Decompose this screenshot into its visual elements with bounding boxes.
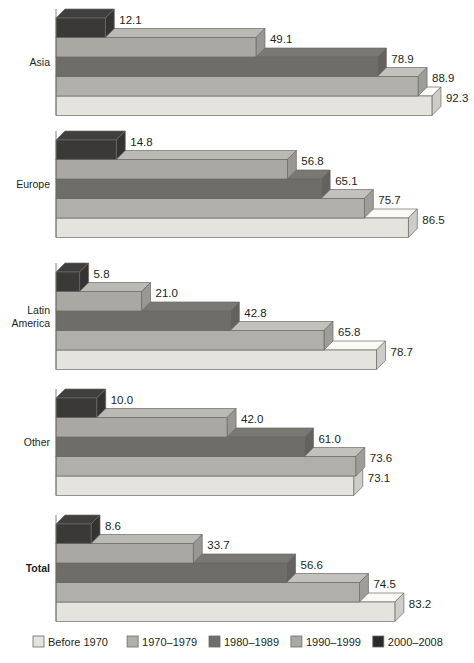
bar-front-face xyxy=(56,476,354,496)
bar-front-face xyxy=(56,311,230,331)
category-label-latin: Latin xyxy=(27,304,50,316)
legend-swatch xyxy=(291,636,302,647)
bar-front-face xyxy=(56,140,116,160)
legend: Before 19701970–19791980–19891990–199920… xyxy=(33,636,443,648)
bar-value-label: 21.0 xyxy=(156,287,178,299)
legend-label: 1970–1979 xyxy=(142,636,197,648)
bar-group-total: 83.274.556.633.78.6Total xyxy=(26,515,432,622)
bar-value-label: 73.1 xyxy=(368,472,390,484)
bar-front-face xyxy=(56,457,356,477)
legend-swatch xyxy=(209,636,220,647)
bar-value-label: 92.3 xyxy=(446,92,468,104)
bar-value-label: 56.6 xyxy=(301,559,323,571)
bar-front-face xyxy=(56,437,304,457)
category-label-asia: Asia xyxy=(30,56,51,68)
legend-item-4[interactable]: 2000–2008 xyxy=(373,636,443,648)
bar-value-label: 75.7 xyxy=(378,194,400,206)
bar-front-face xyxy=(56,418,227,438)
bar-value-label: 61.0 xyxy=(318,433,340,445)
bar-value-label: 65.1 xyxy=(335,175,357,187)
bar-group-other: 73.173.661.042.010.0Other xyxy=(24,389,392,496)
legend-swatch xyxy=(33,636,44,647)
legend-item-2[interactable]: 1980–1989 xyxy=(209,636,279,648)
bar-value-label: 8.6 xyxy=(105,520,121,532)
bar-value-label: 78.9 xyxy=(391,53,413,65)
bar-value-label: 88.9 xyxy=(432,72,454,84)
bar-front-face xyxy=(56,38,256,58)
bar-front-face xyxy=(56,331,324,351)
bar-value-label: 49.1 xyxy=(270,33,292,45)
bar-front-face xyxy=(56,544,193,564)
bar-value-label: 56.8 xyxy=(301,155,323,167)
bar-value-label: 14.8 xyxy=(130,136,152,148)
bar-value-label: 65.8 xyxy=(338,326,360,338)
legend-label: 1990–1999 xyxy=(306,636,361,648)
category-label-other: Other xyxy=(24,436,51,448)
category-label-total: Total xyxy=(26,562,50,574)
bar-front-face xyxy=(56,57,377,77)
bar-front-face xyxy=(56,160,287,180)
bar-value-label: 33.7 xyxy=(207,539,229,551)
bar-front-face xyxy=(56,18,105,38)
bar-value-label: 83.2 xyxy=(409,598,431,610)
bar-front-face xyxy=(56,272,80,292)
legend-item-1[interactable]: 1970–1979 xyxy=(127,636,197,648)
bar-front-face xyxy=(56,563,287,583)
bar-value-label: 78.7 xyxy=(391,346,413,358)
bar-value-label: 42.0 xyxy=(241,413,263,425)
bar-group-latin-america: 78.765.842.821.05.8LatinAmerica xyxy=(11,263,412,370)
bar-group-europe: 86.575.765.156.814.8Europe xyxy=(16,131,445,238)
bar-top-face xyxy=(56,131,125,140)
legend-item-3[interactable]: 1990–1999 xyxy=(291,636,361,648)
bar-value-label: 12.1 xyxy=(119,14,141,26)
legend-item-0[interactable]: Before 1970 xyxy=(33,636,108,648)
bar-value-label: 86.5 xyxy=(422,214,444,226)
bar-front-face xyxy=(56,602,395,622)
bar-value-label: 5.8 xyxy=(94,268,110,280)
stepped-bar-chart: 92.388.978.949.112.1Asia86.575.765.156.8… xyxy=(0,0,474,663)
bar-front-face xyxy=(56,398,97,418)
bar-value-label: 10.0 xyxy=(111,394,133,406)
bar-front-face xyxy=(56,218,408,238)
bar-front-face xyxy=(56,96,432,116)
bar-front-face xyxy=(56,524,91,544)
legend-swatch xyxy=(373,636,384,647)
bar-front-face xyxy=(56,199,364,219)
chart-container: 92.388.978.949.112.1Asia86.575.765.156.8… xyxy=(0,0,474,663)
bar-top-face xyxy=(56,9,114,18)
legend-label: Before 1970 xyxy=(48,636,108,648)
bar-front-face xyxy=(56,583,359,603)
bar-value-label: 73.6 xyxy=(370,452,392,464)
bar-front-face xyxy=(56,179,321,199)
bar-front-face xyxy=(56,350,377,370)
legend-swatch xyxy=(127,636,138,647)
bar-front-face xyxy=(56,292,142,312)
legend-label: 2000–2008 xyxy=(388,636,443,648)
category-label-europe: Europe xyxy=(16,178,50,190)
bar-group-asia: 92.388.978.949.112.1Asia xyxy=(30,9,469,116)
bar-value-label: 74.5 xyxy=(373,578,395,590)
bar-front-face xyxy=(56,77,418,97)
bar-value-label: 42.8 xyxy=(244,307,266,319)
category-label-latin: America xyxy=(11,317,50,329)
legend-label: 1980–1989 xyxy=(224,636,279,648)
